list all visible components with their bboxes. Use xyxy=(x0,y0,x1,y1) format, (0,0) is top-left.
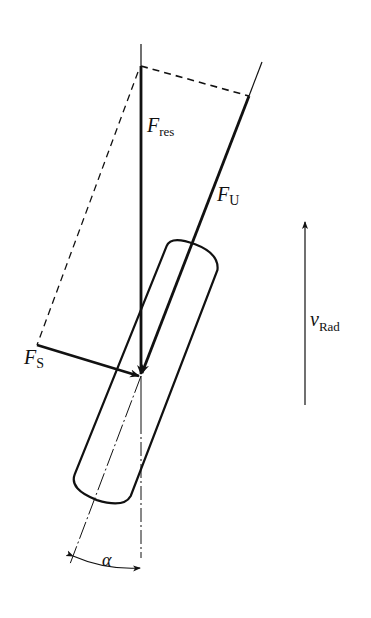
wheel-plane-line-top xyxy=(249,62,262,96)
f-res-label: Fres xyxy=(146,114,174,139)
wheel-plane-line-dashdot xyxy=(70,376,141,564)
construction-line-left xyxy=(37,72,138,345)
tire-outline xyxy=(69,234,223,511)
alpha-label: α xyxy=(102,550,112,570)
construction-line-top xyxy=(141,66,249,96)
f-u-vector xyxy=(142,96,249,373)
f-s-label: FS xyxy=(23,346,44,371)
f-u-label: FU xyxy=(216,183,239,208)
v-rad-label: vRad xyxy=(310,308,340,334)
force-diagram: Fres FU FS vRad α xyxy=(0,0,371,618)
f-s-vector xyxy=(37,345,139,376)
